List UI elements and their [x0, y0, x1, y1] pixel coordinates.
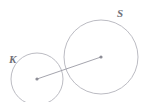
center-dot-s — [99, 55, 102, 58]
circle-k-label: K — [8, 53, 17, 65]
geometry-canvas: K S — [0, 0, 147, 102]
geometry-figure: K S — [0, 0, 147, 102]
center-dot-k — [35, 77, 38, 80]
circle-s-label: S — [117, 7, 123, 19]
